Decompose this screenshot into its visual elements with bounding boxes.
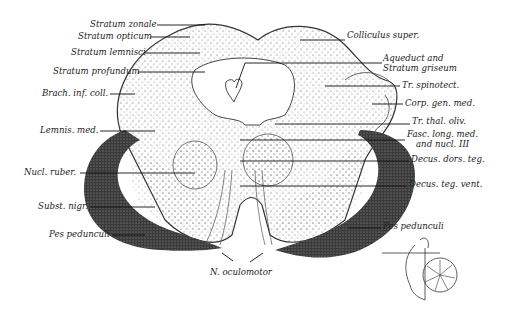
oculomotor-leader-right (250, 253, 263, 262)
label-decus-dors-teg: Decus. dors. teg. (411, 155, 485, 164)
label-stratum-zonale: Stratum zonale (90, 20, 157, 29)
label-stratum-griseum: Stratum griseum (383, 64, 457, 73)
label-nucl-ruber: Nucl. ruber. (24, 168, 76, 177)
label-fasc-long-med: Fasc. long. med. (407, 130, 478, 139)
orientation-inset (382, 238, 457, 300)
label-pes-pedunculi-right: Pes pedunculi (383, 222, 444, 231)
label-n-oculomotor: N. oculomotor (210, 268, 272, 277)
nucleus-ruber-left (173, 141, 217, 189)
label-and-nucl-iii: and nucl. III (416, 140, 469, 149)
label-stratum-profundum: Stratum profundum (53, 67, 140, 76)
label-corp-gen-med: Corp. gen. med. (405, 99, 475, 108)
label-pes-pedunculi-left: Pes pedunculi (49, 230, 110, 239)
midbrain-diagram: Stratum zonale Stratum opticum Stratum l… (0, 0, 507, 311)
label-colliculus-super: Colliculus super. (347, 31, 419, 40)
label-tr-thal-oliv: Tr. thal. oliv. (412, 117, 466, 126)
label-brach-inf-coll: Brach. inf. coll. (42, 89, 108, 98)
label-lemnis-med: Lemnis. med. (40, 126, 99, 135)
artist-signature: E.W.Eger (330, 248, 349, 253)
label-stratum-lemnisci: Stratum lemnisci (71, 48, 146, 57)
nucleus-ruber-right (243, 134, 293, 186)
label-tr-spinotect: Tr. spinotect. (402, 81, 459, 90)
label-stratum-opticum: Stratum opticum (78, 32, 152, 41)
oculomotor-leader-left (222, 253, 233, 261)
label-decus-teg-vent: Decus. teg. vent. (409, 180, 482, 189)
label-subst-nigr: Subst. nigr. (38, 202, 88, 211)
label-aqueduct-and: Aqueduct and (383, 54, 444, 63)
